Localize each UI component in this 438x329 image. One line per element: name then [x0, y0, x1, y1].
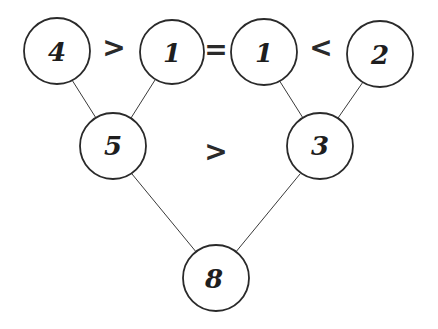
edge-2-to-3 [338, 82, 363, 118]
node-4: 4 [24, 18, 90, 84]
operator-greater-than-top: > [102, 31, 125, 64]
node-8: 8 [183, 245, 249, 311]
edge-1-to-5 [131, 80, 155, 118]
operator-equals: = [204, 33, 227, 66]
comparison-tree-diagram: 4 1 1 2 5 3 8 > = < > [0, 0, 438, 329]
edge-4-to-5 [72, 80, 96, 118]
node-value: 5 [104, 131, 122, 161]
node-1-left: 1 [140, 20, 204, 84]
operator-less-than: < [309, 31, 332, 64]
node-value: 1 [255, 38, 273, 68]
edge-5-to-8 [132, 174, 197, 253]
node-value: 1 [163, 38, 181, 68]
operator-greater-than-middle: > [204, 135, 227, 168]
node-value: 3 [311, 131, 329, 161]
node-value: 8 [204, 264, 223, 294]
node-value: 2 [370, 40, 389, 70]
node-1-right: 1 [231, 19, 297, 85]
node-3: 3 [287, 113, 353, 179]
node-5: 5 [80, 113, 146, 179]
edge-1-to-3 [279, 80, 303, 118]
node-value: 4 [48, 37, 66, 67]
edge-3-to-8 [235, 174, 300, 253]
node-2: 2 [347, 21, 413, 87]
